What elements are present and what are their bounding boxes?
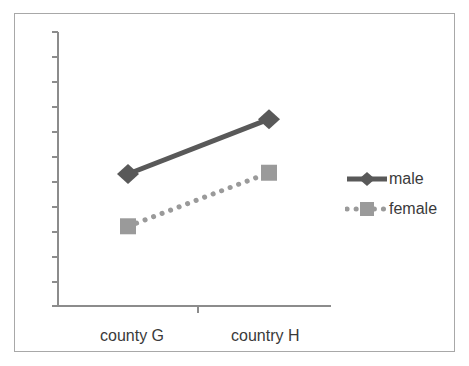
x-tick-label-county-g: county G [100,327,164,345]
series-female [120,165,277,235]
x-tick-label-country-h: country H [231,327,299,345]
legend-marker-male-diamond-icon [345,170,389,188]
chart-frame: county G country H male [14,13,455,352]
data-point-female-country-h [261,165,277,181]
data-point-female-county-g [120,218,136,234]
data-point-male-county-g [117,164,139,184]
legend-item-male: male [345,164,465,194]
data-point-male-country-h [258,109,280,129]
legend-label-male: male [389,170,424,188]
legend-marker-female-square-icon [345,200,389,218]
x-axis [58,306,331,313]
y-axis [52,32,58,306]
chart-legend: male female [345,164,465,224]
chart-screenshot: county G country H male [0,0,469,366]
series-male [117,109,280,184]
legend-item-female: female [345,194,465,224]
legend-label-female: female [389,200,437,218]
